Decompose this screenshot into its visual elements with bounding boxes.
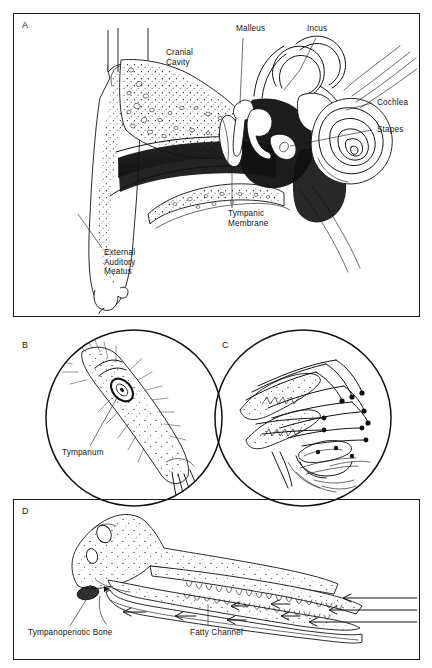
anatomical-figure: A — [0, 0, 432, 668]
label-cochlea: Cochlea — [377, 98, 408, 108]
label-tympanoperiotic-bone: Tympanoperiotic Bone — [28, 628, 112, 638]
panel-d-letter: D — [22, 506, 29, 516]
label-external-auditory-meatus-line2: Auditory — [104, 258, 135, 267]
label-tympanic-membrane-line2: Membrane — [228, 219, 268, 228]
panel-c-letter: C — [222, 340, 229, 350]
label-cranial-cavity: CranialCavity — [166, 48, 193, 67]
label-external-auditory-meatus-line3: Meatus — [104, 267, 132, 276]
label-external-auditory-meatus: ExternalAuditoryMeatus — [104, 248, 135, 277]
label-cranial-cavity-line2: Cavity — [166, 58, 190, 67]
label-stapes: Stapes — [377, 125, 403, 135]
label-tympanic-membrane-line1: Tympanic — [228, 209, 264, 218]
label-incus: Incus — [307, 24, 327, 34]
label-external-auditory-meatus-line1: External — [104, 248, 135, 257]
panel-b-letter: B — [22, 340, 28, 350]
label-tympanum: Tympanum — [62, 448, 104, 458]
label-malleus: Malleus — [236, 24, 265, 34]
label-fatty-channel: Fatty Channel — [190, 628, 243, 638]
panel-b-artwork — [56, 334, 200, 506]
label-cranial-cavity-line1: Cranial — [166, 48, 193, 57]
label-tympanic-membrane: TympanicMembrane — [228, 209, 268, 228]
panel-c-artwork — [240, 360, 371, 492]
